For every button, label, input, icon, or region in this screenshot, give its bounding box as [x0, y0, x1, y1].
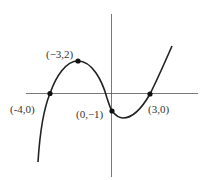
label-3-0: (3,0) — [148, 103, 169, 116]
point-neg4-0 — [47, 91, 52, 96]
point-3-0 — [147, 91, 152, 96]
function-graph: (-4,0) (−3,2) (0,−1) (3,0) — [0, 0, 207, 180]
label-neg4-0: (-4,0) — [10, 103, 35, 116]
label-neg3-2: (−3,2) — [46, 48, 74, 61]
label-0-neg1: (0,−1) — [76, 108, 104, 121]
point-neg3-2 — [75, 58, 80, 63]
point-0-neg1 — [109, 108, 114, 113]
